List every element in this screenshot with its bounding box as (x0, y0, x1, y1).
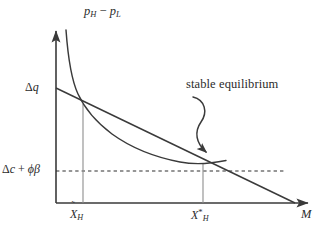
delta-glyph: Δ (2, 162, 10, 176)
x-tilde-accent-wrap: X˜ (70, 207, 77, 222)
delta-glyph: Δ (25, 80, 33, 94)
downward-sloping-straight-line (56, 88, 295, 203)
annotation-stable-equilibrium: stable equilibrium (186, 77, 278, 92)
y-tick-label-delta-q: Δq (25, 80, 39, 95)
h-subscript: H (203, 214, 209, 223)
x-tick-label-x-star-h: X*H (191, 207, 209, 223)
economics-diagram: pH − pL Δq Δc + ϕβ X˜H X*H M stable equi… (0, 0, 321, 240)
tilde-accent: ˜ (70, 201, 76, 211)
y-tick-label-delta-c-phi-beta: Δc + ϕβ (2, 162, 40, 177)
y-axis-label-sub2: L (116, 9, 121, 19)
beta-glyph: β (34, 162, 40, 176)
plus-glyph: + (15, 162, 28, 176)
h-subscript: H (77, 213, 83, 222)
y-axis-label: pH − pL (84, 4, 121, 19)
q-glyph: q (33, 80, 39, 94)
x-tick-label-x-tilde-h: X˜H (70, 207, 83, 222)
annotation-arrow (193, 97, 206, 152)
decreasing-convex-curve (66, 30, 226, 164)
y-axis-label-minus: − (96, 4, 109, 18)
diagram-canvas (0, 0, 321, 240)
x-axis-label: M (301, 207, 311, 222)
